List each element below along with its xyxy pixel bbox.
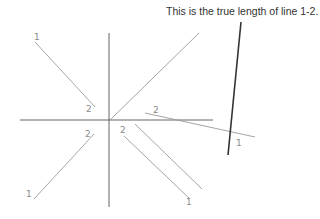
true-length-line <box>228 22 241 155</box>
point-label-2: 2 <box>85 129 91 139</box>
point-label-1: 1 <box>236 138 242 148</box>
point-label-2: 2 <box>153 105 159 115</box>
projection-sw-line <box>34 134 94 199</box>
projection-nw-line <box>35 42 95 107</box>
point-label-2: 2 <box>86 104 92 114</box>
projection-east-line <box>145 113 255 137</box>
point-label-1: 1 <box>186 197 192 207</box>
projection-diagram: 12212121 <box>0 0 320 219</box>
point-label-1: 1 <box>34 32 40 42</box>
point-label-2: 2 <box>120 125 126 135</box>
point-label-1: 1 <box>26 189 32 199</box>
